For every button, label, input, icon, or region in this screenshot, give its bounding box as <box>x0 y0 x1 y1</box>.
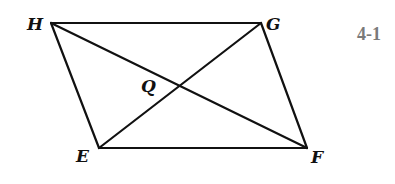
vertex-label-E: E <box>75 146 90 166</box>
intersection-label-Q: Q <box>141 76 156 96</box>
parallelogram-diagram: H G E F Q 4-1 <box>0 0 395 184</box>
figure-number: 4-1 <box>357 24 381 44</box>
vertex-label-H: H <box>26 14 44 34</box>
vertex-label-G: G <box>266 14 281 34</box>
diagonal-EG <box>99 23 261 148</box>
vertex-label-F: F <box>310 147 325 167</box>
